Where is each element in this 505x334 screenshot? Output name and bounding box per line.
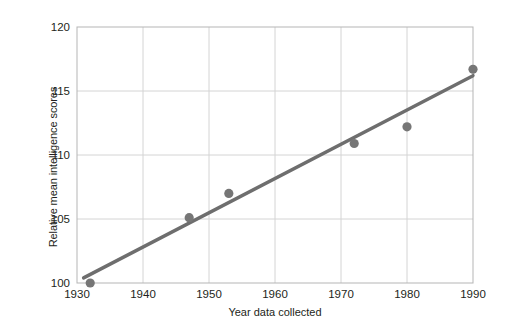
x-axis-label: Year data collected	[77, 306, 473, 318]
y-tick-label: 110	[52, 149, 70, 161]
trend-line-path	[84, 76, 473, 278]
data-point	[402, 122, 411, 131]
chart-canvas	[77, 27, 473, 283]
x-tick-label: 1990	[460, 288, 486, 300]
y-tick-label: 115	[52, 85, 70, 97]
trend-line	[84, 76, 473, 278]
plot-area: 100105110115120 193019401950196019701980…	[77, 27, 473, 283]
y-tick-label: 120	[51, 21, 70, 33]
x-tick-label: 1970	[328, 288, 354, 300]
data-point	[185, 213, 194, 222]
x-tick-label: 1940	[130, 288, 156, 300]
gridlines	[77, 27, 473, 283]
x-tick-label: 1960	[262, 288, 288, 300]
y-tick-label: 105	[51, 213, 70, 225]
chart-figure: Relative mean intelligence scores 100105…	[0, 0, 505, 334]
data-point	[86, 278, 95, 287]
data-point	[468, 65, 477, 74]
x-tick-label: 1950	[196, 288, 222, 300]
x-tick-label: 1980	[394, 288, 420, 300]
data-point	[350, 139, 359, 148]
x-tick-label: 1930	[64, 288, 90, 300]
data-point	[224, 189, 233, 198]
y-axis-label-wrapper: Relative mean intelligence scores	[14, 0, 40, 300]
